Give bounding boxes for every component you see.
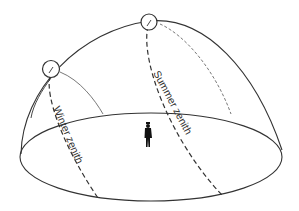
- sun-summer-icon: [141, 14, 157, 30]
- winter-left-arc: [31, 78, 51, 118]
- observer-figure: [145, 122, 153, 147]
- celestial-dome-diagram: Winter zenith Summer zenith: [0, 0, 299, 211]
- sun-winter-icon: [43, 61, 60, 78]
- winter-zenith-label: Winter zenith: [51, 104, 86, 165]
- winter-back-arc: [60, 72, 103, 114]
